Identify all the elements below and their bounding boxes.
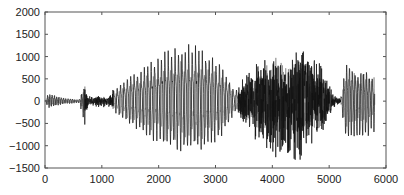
y-tick-label: −500 <box>15 117 40 129</box>
y-tick-label: 500 <box>22 73 40 85</box>
x-tick-label: 5000 <box>317 173 341 185</box>
y-tick-label: −1500 <box>9 162 40 174</box>
x-tick-label: 3000 <box>203 173 227 185</box>
waveform-trace <box>45 44 375 159</box>
y-tick-label: 1500 <box>16 28 40 40</box>
y-tick-label: −1000 <box>9 140 40 152</box>
y-tick-label: 1000 <box>16 51 40 63</box>
x-tick-label: 0 <box>42 173 48 185</box>
x-tick-label: 6000 <box>374 173 398 185</box>
y-tick-label: 2000 <box>16 6 40 18</box>
waveform-chart: 0100020003000400050006000 20001500100050… <box>0 0 404 195</box>
x-tick-label: 1000 <box>90 173 114 185</box>
x-tick-label: 4000 <box>260 173 284 185</box>
waveform-series <box>45 44 375 159</box>
x-tick-label: 2000 <box>146 173 170 185</box>
y-tick-label: 0 <box>34 95 40 107</box>
